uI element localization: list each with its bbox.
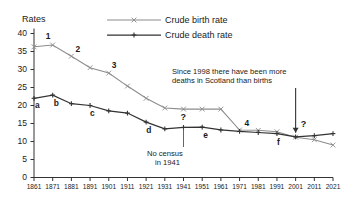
birth-point-label-1: 1	[46, 32, 51, 40]
annotation-no-census-line2: in 1941	[155, 159, 180, 167]
death-point-label-c: c	[90, 109, 95, 117]
annotation-deaths-exceed-births-line1: Since 1998 there have been more	[172, 68, 286, 76]
y-axis-title: Rates	[22, 15, 46, 24]
x-tick-label: 2021	[322, 184, 344, 191]
legend-label-crude-death-rate: Crude death rate	[165, 31, 233, 40]
death-point-label-b: b	[54, 99, 59, 107]
y-tick-label: 10	[13, 137, 27, 146]
birth-point-label-3: 3	[112, 61, 117, 69]
y-tick-label: 35	[13, 47, 27, 56]
death-point-label-f: f	[277, 138, 280, 146]
death-point-label-d: d	[146, 126, 151, 134]
y-tick-label: 25	[13, 83, 27, 92]
y-tick-label: 0	[13, 173, 27, 182]
legend-label-crude-birth-rate: Crude birth rate	[165, 16, 228, 25]
question-mark-census: ?	[181, 113, 187, 122]
legend	[107, 18, 161, 38]
y-tick-label: 15	[13, 119, 27, 128]
y-tick-label: 30	[13, 65, 27, 74]
question-mark-crossover: ?	[301, 120, 307, 129]
crossover-arrow-head	[293, 128, 299, 133]
annotation-no-census-line1: No census	[147, 150, 183, 158]
birth-point-label-2: 2	[75, 45, 80, 53]
y-tick-label: 40	[13, 29, 27, 38]
death-point-label-a: a	[35, 101, 40, 109]
birth-point-label-4: 4	[245, 119, 250, 127]
death-point-label-e: e	[203, 131, 208, 139]
annotation-deaths-exceed-births-line2: deaths in Scotland than births	[172, 77, 272, 85]
y-tick-label: 5	[13, 155, 27, 164]
y-tick-label: 20	[13, 101, 27, 110]
